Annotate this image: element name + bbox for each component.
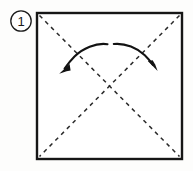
step-number-badge: 1 bbox=[11, 11, 31, 31]
step-number-label: 1 bbox=[17, 14, 24, 29]
diagram-canvas: 1 bbox=[0, 0, 193, 171]
origami-step-diagram: 1 bbox=[0, 0, 193, 171]
